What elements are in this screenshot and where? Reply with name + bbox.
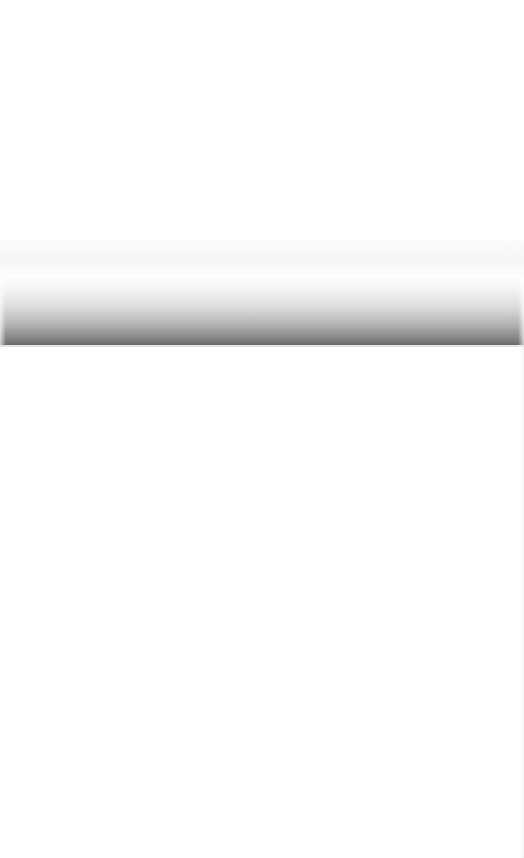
header-shadow-gradient (0, 276, 524, 345)
header-light-band (0, 240, 524, 276)
scroll-track[interactable] (520, 347, 524, 858)
app-screen (0, 0, 524, 858)
content-area (0, 347, 524, 858)
header-area (0, 0, 524, 240)
